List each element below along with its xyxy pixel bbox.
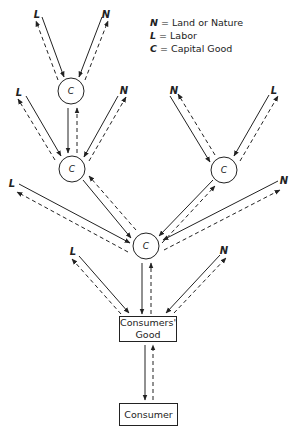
labor-label-3: L (271, 85, 277, 96)
legend: N = Land or Nature L = Labor C = Capital… (150, 16, 243, 55)
flow-n5-to-cg (166, 255, 220, 313)
flow-cg-to-l5 (72, 259, 121, 314)
nature-label-3: N (170, 85, 178, 96)
legend-item-labor: L = Labor (150, 29, 243, 42)
flow-cbottom-to-cmidright (162, 186, 215, 243)
flow-l4-to-c (19, 184, 130, 243)
flow-c-to-l3 (240, 96, 278, 161)
labor-label-4: L (9, 178, 15, 189)
production-structure-diagram (0, 0, 295, 435)
flow-l5-to-cg (79, 256, 129, 313)
legend-item-capital: C = Capital Good (150, 42, 243, 55)
flow-l2-to-c (26, 96, 61, 156)
legend-item-nature: N = Land or Nature (150, 16, 243, 29)
flow-cg-to-n5 (174, 258, 226, 313)
flow-cbottom-to-cmidleft (89, 176, 136, 230)
flow-c-to-n1 (85, 21, 108, 80)
flow-n1-to-c (79, 17, 102, 77)
flow-c-to-n4 (164, 190, 280, 250)
nature-label-1: N (102, 9, 110, 20)
nature-label-5: N (220, 245, 228, 256)
flow-c-to-l2 (18, 99, 55, 160)
labor-label-5: L (70, 246, 76, 257)
labor-label-1: L (34, 9, 40, 20)
flow-l3-to-c (234, 95, 269, 156)
labor-label-2: L (16, 87, 22, 98)
capital-good-label-mid-right: C (221, 165, 227, 175)
flow-n3-to-c (170, 96, 210, 162)
flow-n2-to-c (84, 96, 118, 157)
flow-c-to-n2 (89, 97, 126, 161)
nature-label-4: N (280, 175, 288, 186)
consumers-good-box: Consumers' Good (119, 316, 177, 342)
flow-cmidright-to-cbottom (159, 180, 213, 236)
flow-c-to-n3 (178, 94, 215, 155)
flow-cmidleft-to-cbottom (83, 180, 131, 238)
consumer-box: Consumer (119, 403, 178, 426)
capital-good-label-top: C (68, 86, 74, 96)
nature-label-2: N (120, 85, 128, 96)
capital-good-label-mid-left: C (69, 164, 75, 174)
flow-n4-to-c (163, 181, 278, 240)
capital-good-label-bottom: C (143, 241, 149, 251)
